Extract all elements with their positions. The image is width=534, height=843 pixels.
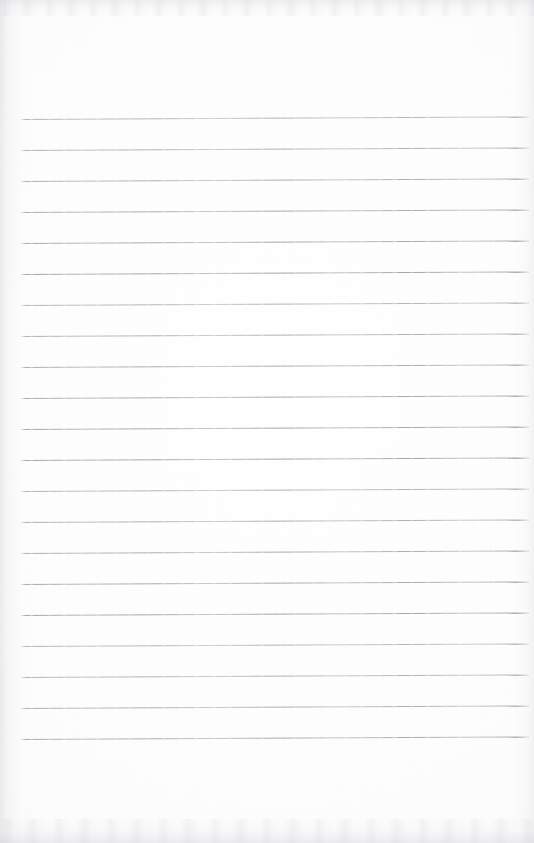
ruled-line bbox=[20, 396, 529, 399]
top-edge-speckle bbox=[0, 0, 534, 16]
ruled-line bbox=[20, 334, 529, 337]
ruled-line bbox=[20, 179, 529, 182]
ruled-line bbox=[20, 644, 529, 647]
bottom-edge-speckle bbox=[0, 819, 534, 843]
right-edge-shadow bbox=[512, 0, 534, 843]
ruled-line bbox=[20, 272, 529, 275]
ruled-lines-group bbox=[0, 0, 534, 843]
scanned-page bbox=[0, 0, 534, 843]
ruled-line bbox=[20, 706, 529, 709]
ruled-line bbox=[20, 210, 529, 213]
ruled-line bbox=[20, 675, 529, 678]
ruled-line bbox=[20, 365, 529, 368]
left-edge-shadow bbox=[0, 0, 34, 843]
ruled-line bbox=[20, 582, 529, 585]
ruled-line bbox=[20, 148, 529, 151]
ruled-line bbox=[20, 458, 529, 461]
ruled-line bbox=[20, 551, 529, 554]
ruled-line bbox=[20, 241, 529, 244]
ruled-line bbox=[20, 489, 529, 492]
ruled-line bbox=[20, 427, 529, 430]
ruled-line bbox=[20, 613, 529, 616]
ruled-line bbox=[20, 303, 529, 306]
ruled-line bbox=[20, 117, 529, 120]
ruled-line bbox=[20, 520, 529, 523]
ruled-line bbox=[20, 737, 529, 740]
